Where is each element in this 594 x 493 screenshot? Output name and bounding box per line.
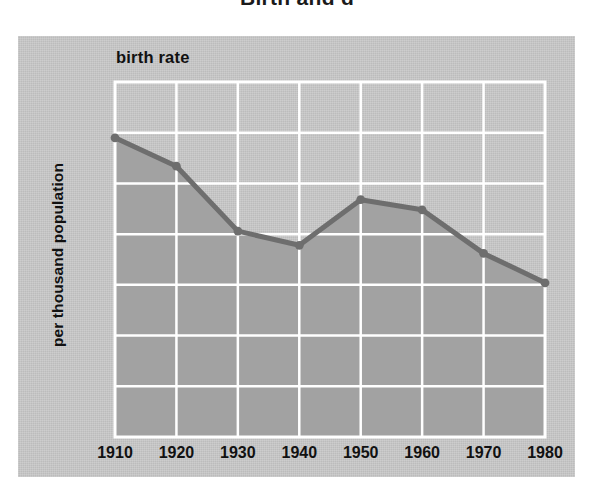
x-tick-label: 1930 — [220, 444, 256, 462]
x-tick-label: 1960 — [404, 444, 440, 462]
figure-panel: birth rate per thousand population 05101… — [18, 36, 575, 477]
line-chart-plot — [18, 36, 575, 477]
x-tick-label: 1950 — [343, 444, 379, 462]
x-tick-label: 1970 — [466, 444, 502, 462]
x-tick-label: 1940 — [281, 444, 317, 462]
x-tick-label: 1920 — [159, 444, 195, 462]
x-tick-label: 1980 — [527, 444, 563, 462]
x-tick-label: 1910 — [97, 444, 133, 462]
page-title: Birth and d — [0, 0, 594, 10]
